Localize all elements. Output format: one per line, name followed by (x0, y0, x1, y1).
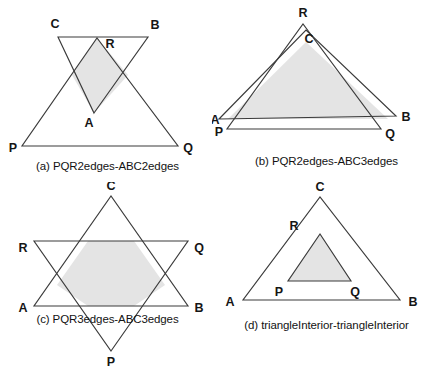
vertex-label-r-b: R (298, 6, 307, 20)
panel-d-drawing: C R P Q A B (212, 182, 441, 317)
panel-d-caption: (d) triangleInterior-triangleInterior (212, 319, 441, 331)
vertex-label-r-a: R (105, 37, 114, 51)
vertex-label-p-c: P (107, 355, 115, 369)
intersection-region-d (288, 234, 351, 281)
panel-c: C R Q A B P (c) PQR3edges-ABC3edges (0, 182, 215, 373)
vertex-label-b-a: B (150, 18, 159, 32)
vertex-label-c-a: C (50, 17, 59, 31)
vertex-label-p-a: P (9, 141, 17, 155)
vertex-label-b-d: B (408, 295, 417, 309)
panel-b: R C A P B Q (b) PQR2edges-ABC3edges (212, 0, 441, 187)
vertex-label-b-b: B (401, 110, 410, 124)
vertex-label-p-d: P (275, 285, 283, 299)
panel-a-drawing: C B R A P Q (0, 0, 215, 160)
vertex-label-c-c: C (106, 182, 115, 193)
panel-b-drawing: R C A P B Q (212, 0, 441, 155)
vertex-label-p-b: P (215, 125, 223, 139)
panel-b-caption: (b) PQR2edges-ABC3edges (212, 155, 441, 167)
vertex-label-q-d: Q (350, 285, 360, 299)
vertex-label-r-d: R (289, 219, 298, 233)
panel-d: C R P Q A B (d) triangleInterior-triangl… (212, 182, 441, 373)
triangle-intersection-figure: C B R A P Q (a) PQR2edges-ABC2edges R C … (0, 0, 441, 373)
intersection-region-b (228, 42, 388, 119)
vertex-label-c-b: C (304, 32, 313, 46)
vertex-label-c-d: C (315, 182, 324, 194)
vertex-label-a-d: A (225, 295, 234, 309)
panel-a: C B R A P Q (a) PQR2edges-ABC2edges (0, 0, 215, 187)
panel-c-caption: (c) PQR3edges-ABC3edges (0, 313, 215, 325)
panel-c-drawing: C R Q A B P (0, 182, 215, 373)
vertex-label-a-a: A (84, 116, 93, 130)
panel-a-caption: (a) PQR2edges-ABC2edges (0, 160, 215, 172)
vertex-label-q-b: Q (385, 127, 395, 141)
vertex-label-q-c: Q (194, 241, 204, 255)
vertex-label-q-a: Q (183, 141, 193, 155)
intersection-region-a (72, 38, 128, 113)
vertex-label-r-c: R (18, 241, 27, 255)
